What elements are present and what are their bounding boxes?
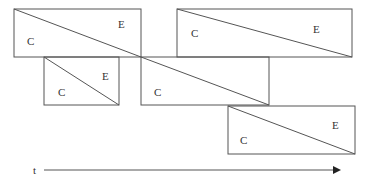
label-e: E xyxy=(313,23,320,35)
label-c: C xyxy=(191,27,198,39)
label-c: C xyxy=(58,86,65,98)
label-t: t xyxy=(33,164,36,176)
label-e: E xyxy=(102,70,109,82)
label-e: E xyxy=(332,119,339,131)
label-e: E xyxy=(118,18,125,30)
label-c: C xyxy=(240,134,247,146)
arrow-head-icon xyxy=(333,166,341,174)
label-c: C xyxy=(27,35,34,47)
label-c: C xyxy=(154,86,161,98)
diagram: C E C E C E C C E t xyxy=(0,0,369,184)
